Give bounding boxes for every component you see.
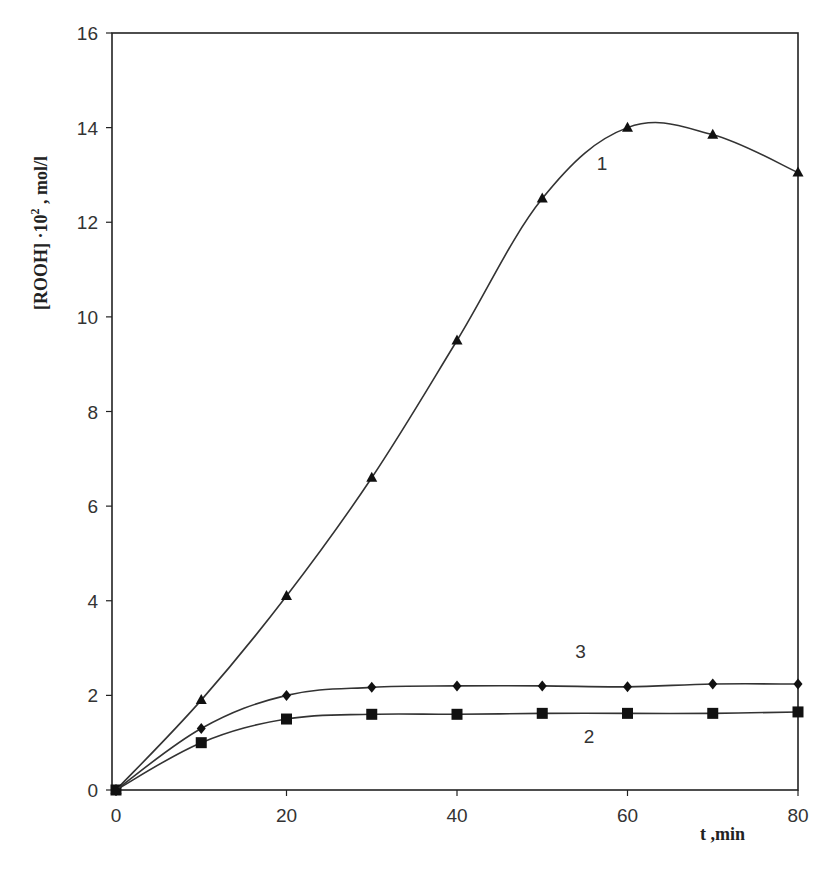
diamond-marker <box>794 679 803 690</box>
line-chart: 0246810121416 020406080 132 t ,min [ROOH… <box>0 0 831 871</box>
square-marker <box>452 709 463 720</box>
diamond-marker <box>623 681 632 692</box>
square-marker <box>537 708 548 719</box>
square-marker <box>793 706 804 717</box>
y-tick-label: 14 <box>77 118 99 139</box>
square-marker <box>366 709 377 720</box>
plot-frame <box>112 33 798 790</box>
x-tick-label: 80 <box>787 805 808 826</box>
x-axis-ticks: 020406080 <box>111 790 809 826</box>
y-tick-label: 0 <box>87 780 98 801</box>
y-axis-title: [ROOH] ·102 , mol/l <box>28 156 51 310</box>
y-tick-label: 4 <box>87 591 98 612</box>
y-tick-label: 2 <box>87 685 98 706</box>
square-marker <box>196 737 207 748</box>
square-marker <box>622 708 633 719</box>
diamond-marker <box>197 723 206 734</box>
curve-label-1: 1 <box>597 153 608 174</box>
y-axis-ticks: 0246810121416 <box>77 23 112 801</box>
series-1 <box>111 122 804 794</box>
diamond-marker <box>282 690 291 701</box>
x-tick-label: 0 <box>111 805 122 826</box>
x-tick-label: 40 <box>446 805 467 826</box>
series-2 <box>111 706 804 795</box>
diamond-marker <box>708 679 717 690</box>
y-tick-label: 16 <box>77 23 98 44</box>
x-tick-label: 60 <box>617 805 638 826</box>
x-axis-title: t ,min <box>700 824 745 844</box>
curve-labels: 132 <box>575 153 607 746</box>
diamond-marker <box>453 680 462 691</box>
x-tick-label: 20 <box>276 805 297 826</box>
data-series <box>111 122 804 796</box>
y-axis-title-main: [ROOH] ·10 <box>31 215 51 311</box>
y-axis-title-unit: , mol/l <box>31 156 51 209</box>
y-tick-label: 8 <box>87 402 98 423</box>
diamond-marker <box>538 680 547 691</box>
series-line <box>116 712 798 790</box>
y-tick-label: 10 <box>77 307 98 328</box>
curve-label-2: 2 <box>584 726 595 747</box>
triangle-marker <box>452 335 463 345</box>
square-marker <box>707 708 718 719</box>
y-tick-label: 12 <box>77 212 98 233</box>
square-marker <box>281 714 292 725</box>
diamond-marker <box>367 682 376 693</box>
y-tick-label: 6 <box>87 496 98 517</box>
curve-label-3: 3 <box>575 641 586 662</box>
